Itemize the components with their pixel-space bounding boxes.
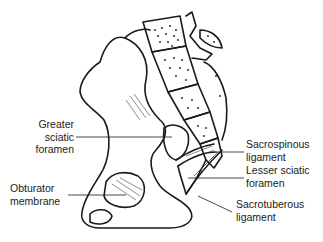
label-greater-sciatic-foramen: Greater sciatic foramen <box>20 118 74 156</box>
label-obturator-membrane: Obturator membrane <box>10 182 72 207</box>
label-lesser-sciatic-foramen: Lesser sciatic foramen <box>246 164 322 189</box>
hip-bone-outline <box>80 37 192 228</box>
obturator-foramen-outline <box>104 173 144 208</box>
leader-sacrotuberous <box>198 196 232 212</box>
label-sacrotuberous-ligament: Sacrotuberous ligament <box>236 198 320 223</box>
lesser-sciatic-foramen-outline <box>178 160 206 194</box>
label-sacrospinous-ligament: Sacrospinous ligament <box>246 138 322 163</box>
